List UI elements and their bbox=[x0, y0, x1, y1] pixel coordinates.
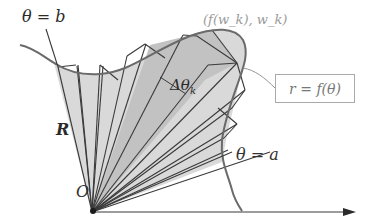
polar-area-diagram bbox=[0, 0, 368, 221]
sample-point-label: (f(w_k), w_k) bbox=[203, 13, 287, 26]
axis-arrowhead-icon bbox=[343, 208, 356, 216]
origin-label: O bbox=[76, 184, 89, 200]
equation-box: r = f(θ) bbox=[275, 74, 355, 103]
equation-label: r = f(θ) bbox=[289, 81, 341, 97]
theta-a-label: θ = a bbox=[236, 147, 279, 163]
delta-theta-label: Δθk bbox=[170, 78, 196, 96]
region-label-R: R bbox=[56, 122, 69, 138]
theta-b-label: θ = b bbox=[22, 9, 65, 25]
delta-theta-symbol: Δθ bbox=[170, 76, 190, 94]
origin-point bbox=[90, 208, 96, 214]
delta-theta-subscript: k bbox=[190, 85, 196, 96]
equation-leader bbox=[243, 68, 275, 88]
